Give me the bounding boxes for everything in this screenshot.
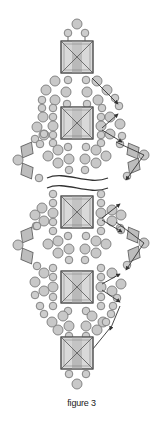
- bottom-cap: [61, 337, 93, 389]
- round-bead: [30, 277, 40, 287]
- round-bead: [115, 102, 123, 110]
- round-bead: [38, 96, 46, 104]
- round-bead: [49, 227, 57, 235]
- round-bead: [40, 310, 48, 318]
- round-bead: [115, 119, 125, 129]
- round-bead: [58, 311, 68, 321]
- round-bead: [102, 318, 110, 326]
- round-bead: [97, 227, 105, 235]
- round-bead: [53, 158, 63, 168]
- round-bead: [65, 256, 73, 264]
- round-bead: [49, 273, 57, 281]
- round-bead: [82, 232, 90, 240]
- round-bead: [61, 87, 71, 97]
- round-bead: [87, 311, 97, 321]
- round-bead: [39, 268, 49, 278]
- unit-3: [30, 264, 126, 340]
- round-bead: [33, 262, 41, 270]
- round-bead: [91, 145, 101, 155]
- round-bead: [101, 239, 111, 249]
- round-bead: [81, 29, 89, 37]
- round-bead: [48, 282, 58, 292]
- round-bead: [97, 131, 105, 139]
- round-bead: [33, 222, 41, 230]
- round-bead: [97, 293, 105, 301]
- unit-2: [13, 190, 149, 270]
- round-bead: [91, 248, 101, 258]
- round-bead: [91, 236, 101, 246]
- round-bead: [81, 321, 91, 331]
- round-bead: [72, 379, 82, 389]
- figure-caption: figure 3: [0, 398, 163, 408]
- round-bead: [101, 151, 111, 161]
- round-bead: [64, 29, 72, 37]
- round-bead: [65, 166, 73, 174]
- round-bead: [64, 244, 74, 254]
- round-bead: [35, 174, 43, 182]
- round-bead: [39, 286, 49, 296]
- round-bead: [49, 104, 57, 112]
- round-bead: [116, 279, 126, 289]
- round-bead: [65, 370, 73, 378]
- round-bead: [49, 264, 57, 272]
- round-bead: [64, 143, 72, 151]
- round-bead: [50, 95, 60, 105]
- round-bead: [81, 166, 89, 174]
- round-bead: [82, 143, 90, 151]
- round-bead: [96, 282, 106, 292]
- round-bead: [41, 85, 51, 95]
- round-bead: [13, 155, 23, 165]
- round-bead: [118, 132, 126, 140]
- round-bead: [32, 122, 42, 132]
- round-bead: [92, 76, 102, 86]
- round-bead: [53, 236, 63, 246]
- round-bead: [64, 154, 74, 164]
- round-bead: [64, 232, 72, 240]
- round-bead: [43, 239, 53, 249]
- round-bead: [97, 273, 105, 281]
- round-bead: [49, 131, 57, 139]
- round-bead: [53, 145, 63, 155]
- round-bead: [38, 112, 48, 122]
- round-bead: [82, 76, 90, 84]
- round-bead: [105, 129, 115, 139]
- round-bead: [97, 218, 105, 226]
- round-bead: [40, 130, 48, 138]
- square-bead: [61, 196, 93, 228]
- round-bead: [109, 302, 117, 310]
- round-bead: [49, 199, 57, 207]
- square-bead: [61, 41, 93, 73]
- round-bead: [49, 218, 57, 226]
- round-bead: [93, 95, 103, 105]
- round-bead: [116, 210, 126, 220]
- round-bead: [97, 264, 105, 272]
- round-bead: [49, 113, 57, 121]
- round-bead: [48, 208, 58, 218]
- round-bead: [97, 302, 105, 310]
- square-bead: [61, 271, 93, 303]
- square-bead: [61, 107, 93, 139]
- square-bead: [61, 337, 93, 369]
- round-bead: [91, 158, 101, 168]
- round-bead: [50, 76, 60, 86]
- round-bead: [30, 210, 40, 220]
- round-bead: [31, 291, 39, 299]
- round-bead: [107, 216, 117, 226]
- round-bead: [98, 104, 106, 112]
- round-bead: [13, 240, 23, 250]
- round-bead: [53, 325, 63, 335]
- break-mark: [47, 176, 108, 191]
- round-bead: [107, 310, 115, 318]
- round-bead: [81, 256, 89, 264]
- beading-diagram: figure 3: [0, 0, 163, 426]
- round-bead: [36, 302, 44, 310]
- round-bead: [38, 104, 46, 112]
- top-cap: [61, 19, 93, 73]
- round-bead: [80, 154, 90, 164]
- round-bead: [36, 140, 44, 148]
- round-bead: [92, 325, 102, 335]
- round-bead: [43, 151, 53, 161]
- round-bead: [49, 302, 57, 310]
- round-bead: [82, 87, 92, 97]
- round-bead: [72, 19, 82, 29]
